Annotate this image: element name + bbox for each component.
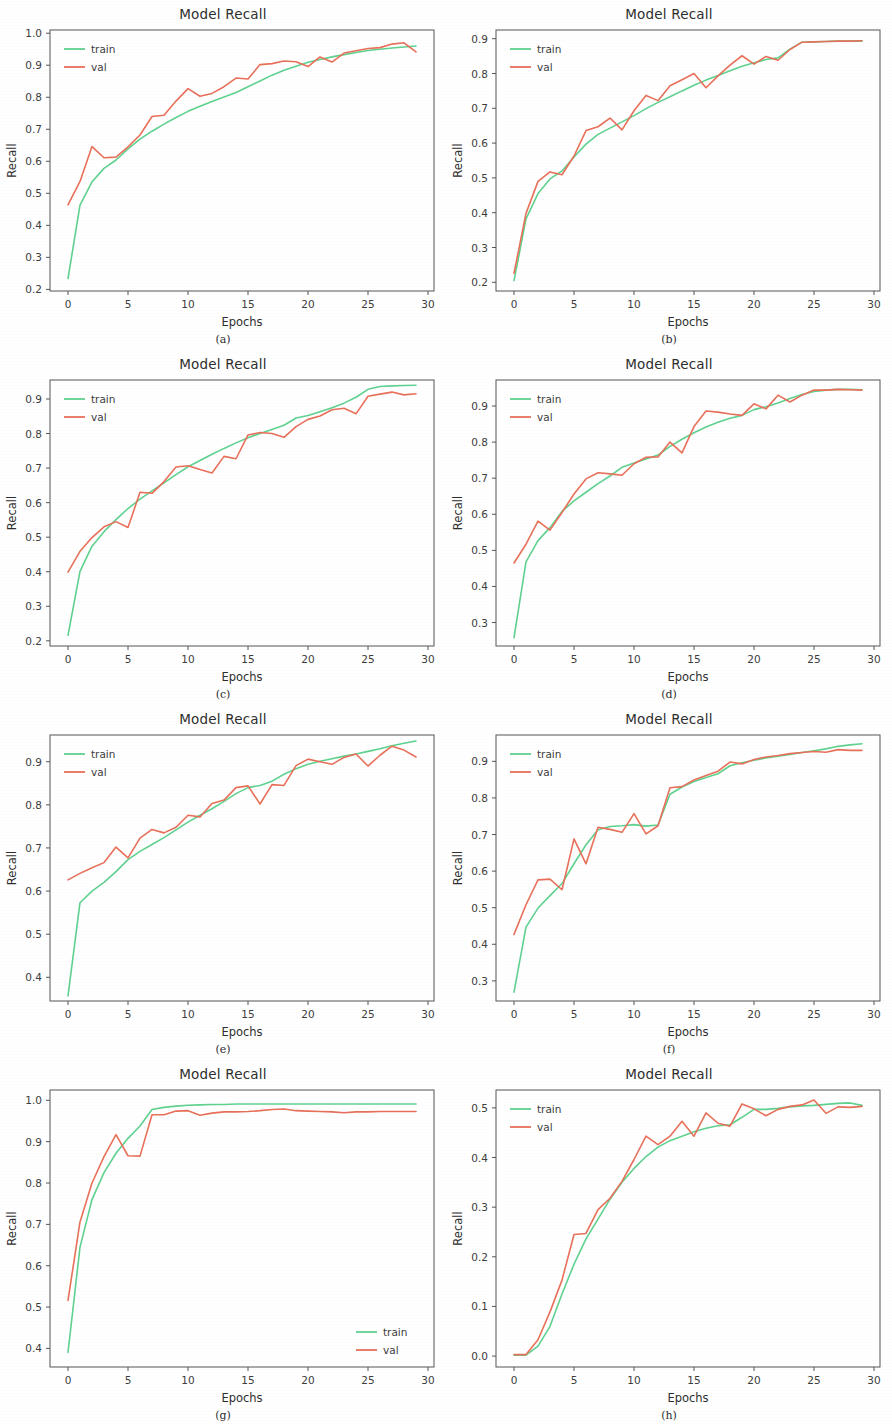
x-tick-label: 0 xyxy=(65,1374,72,1386)
series-line-train xyxy=(514,389,862,637)
x-tick-label: 10 xyxy=(181,298,194,310)
x-tick-label: 10 xyxy=(627,298,640,310)
y-tick-label: 0.5 xyxy=(471,902,488,914)
subfigure-caption-h: (h) xyxy=(446,1409,892,1422)
x-tick-label: 25 xyxy=(807,298,820,310)
x-tick-label: 30 xyxy=(867,1008,880,1020)
legend-label-train: train xyxy=(537,43,561,55)
chart-legend: trainval xyxy=(504,36,580,76)
y-axis-label: Recall xyxy=(5,1211,19,1245)
y-tick-label: 0.5 xyxy=(25,1301,42,1313)
x-axis-label: Epochs xyxy=(50,1391,434,1405)
x-tick-label: 5 xyxy=(125,1008,132,1020)
legend-label-val: val xyxy=(537,1121,553,1133)
y-tick-label: 0.4 xyxy=(25,219,42,231)
y-tick-label: 0.3 xyxy=(471,242,488,254)
y-tick-label: 0.8 xyxy=(25,799,42,811)
x-tick-label: 15 xyxy=(241,298,254,310)
x-tick-label: 30 xyxy=(421,1008,434,1020)
chart-legend: trainval xyxy=(58,36,134,76)
subfigure-caption-c: (c) xyxy=(0,688,446,701)
panel-inner: Model Recall0510152025300.20.30.40.50.60… xyxy=(0,0,446,348)
x-tick-label: 0 xyxy=(511,1008,518,1020)
x-tick-label: 0 xyxy=(511,653,518,665)
y-tick-label: 0.6 xyxy=(25,885,42,897)
x-tick-label: 25 xyxy=(807,1008,820,1020)
y-tick-label: 0.7 xyxy=(25,842,42,854)
y-tick-label: 0.5 xyxy=(471,544,488,556)
subfigure-caption-b: (b) xyxy=(446,333,892,346)
subfigure-caption-e: (e) xyxy=(0,1043,446,1056)
x-tick-label: 10 xyxy=(627,1008,640,1020)
x-tick-label: 25 xyxy=(361,298,374,310)
y-tick-label: 0.3 xyxy=(25,251,42,263)
x-tick-label: 20 xyxy=(301,298,314,310)
legend-label-train: train xyxy=(91,43,115,55)
y-tick-label: 0.2 xyxy=(471,1251,488,1263)
y-tick-label: 0.7 xyxy=(471,829,488,841)
panel-inner: Model Recall0510152025300.00.10.20.30.40… xyxy=(446,1058,892,1424)
y-tick-label: 0.6 xyxy=(25,497,42,509)
panel-inner: Model Recall0510152025300.20.30.40.50.60… xyxy=(0,348,446,703)
legend-label-val: val xyxy=(537,766,553,778)
legend-label-val: val xyxy=(383,1344,399,1356)
series-line-train xyxy=(68,46,416,279)
chart-legend: trainval xyxy=(504,1096,580,1136)
x-tick-label: 10 xyxy=(181,1008,194,1020)
x-tick-label: 10 xyxy=(627,1374,640,1386)
y-axis-label: Recall xyxy=(5,143,19,177)
x-tick-label: 15 xyxy=(687,653,700,665)
chart-legend: trainval xyxy=(350,1319,426,1359)
y-tick-label: 0.7 xyxy=(471,102,488,114)
y-tick-label: 0.9 xyxy=(471,400,488,412)
y-axis-label: Recall xyxy=(451,851,465,885)
y-tick-label: 0.5 xyxy=(471,1102,488,1114)
y-axis-label: Recall xyxy=(451,143,465,177)
y-axis-label: Recall xyxy=(5,496,19,530)
subfigure-caption-g: (g) xyxy=(0,1409,446,1422)
y-tick-label: 1.0 xyxy=(25,1094,42,1106)
plot-area-e: 0510152025300.40.50.60.70.80.9Recalltrai… xyxy=(0,703,446,1058)
x-tick-label: 30 xyxy=(867,298,880,310)
panel-inner: Model Recall0510152025300.40.50.60.70.80… xyxy=(0,1058,446,1424)
chart-legend: trainval xyxy=(504,386,580,426)
y-tick-label: 0.2 xyxy=(471,276,488,288)
y-tick-label: 0.3 xyxy=(25,600,42,612)
y-tick-label: 0.4 xyxy=(471,207,488,219)
legend-label-val: val xyxy=(91,61,107,73)
legend-label-train: train xyxy=(91,748,115,760)
x-tick-label: 20 xyxy=(747,653,760,665)
x-tick-label: 25 xyxy=(807,653,820,665)
y-tick-label: 0.3 xyxy=(471,975,488,987)
chart-panel-c: Model Recall0510152025300.20.30.40.50.60… xyxy=(0,348,446,703)
y-tick-label: 0.3 xyxy=(471,1201,488,1213)
x-tick-label: 5 xyxy=(571,653,578,665)
x-tick-label: 15 xyxy=(241,1374,254,1386)
y-tick-label: 0.8 xyxy=(25,428,42,440)
x-tick-label: 0 xyxy=(511,1374,518,1386)
x-tick-label: 20 xyxy=(301,1374,314,1386)
plot-area-a: 0510152025300.20.30.40.50.60.70.80.91.0R… xyxy=(0,0,446,348)
plot-area-h: 0510152025300.00.10.20.30.40.5Recalltrai… xyxy=(446,1058,892,1424)
y-tick-label: 0.8 xyxy=(471,68,488,80)
x-axis-label: Epochs xyxy=(50,315,434,329)
panel-grid: Model Recall0510152025300.20.30.40.50.60… xyxy=(0,0,892,1424)
y-tick-label: 0.6 xyxy=(471,865,488,877)
series-line-val xyxy=(514,1100,862,1355)
x-tick-label: 5 xyxy=(571,298,578,310)
y-tick-label: 0.5 xyxy=(25,928,42,940)
panel-inner: Model Recall0510152025300.30.40.50.60.70… xyxy=(446,703,892,1058)
x-tick-label: 20 xyxy=(301,653,314,665)
legend-label-train: train xyxy=(537,1103,561,1115)
x-tick-label: 30 xyxy=(421,653,434,665)
x-tick-label: 0 xyxy=(65,1008,72,1020)
y-tick-label: 0.1 xyxy=(471,1300,488,1312)
y-tick-label: 0.7 xyxy=(471,472,488,484)
y-tick-label: 0.6 xyxy=(471,508,488,520)
legend-label-val: val xyxy=(537,61,553,73)
chart-legend: trainval xyxy=(58,386,134,426)
x-tick-label: 15 xyxy=(687,298,700,310)
y-tick-label: 0.5 xyxy=(25,531,42,543)
legend-label-val: val xyxy=(537,411,553,423)
x-tick-label: 20 xyxy=(301,1008,314,1020)
